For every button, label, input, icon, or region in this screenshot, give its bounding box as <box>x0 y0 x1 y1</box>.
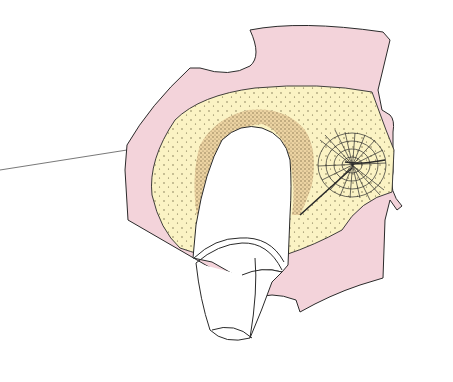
leader-line <box>0 150 127 170</box>
illustration-canvas <box>0 0 453 382</box>
anatomical-illustration <box>0 0 453 382</box>
